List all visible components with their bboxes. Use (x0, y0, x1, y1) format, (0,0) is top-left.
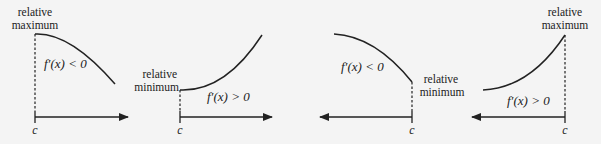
panel-4-label-line1: relative (548, 6, 582, 18)
panel-2-curve (180, 35, 262, 90)
panel-4-derivative: f′(x) > 0 (507, 93, 550, 108)
panel-2-derivative: f′(x) > 0 (207, 89, 250, 104)
panel-3-label-line2: minimum (420, 86, 465, 98)
panel-1-label-line1: relative (18, 6, 52, 18)
diagram-canvas: relative maximum f′(x) < 0 c relative mi… (0, 0, 601, 144)
panel-3-curve (334, 34, 412, 82)
panel-1: relative maximum f′(x) < 0 c (12, 6, 128, 137)
panel-1-point-c: c (32, 123, 38, 137)
panel-3-label-line1: relative (424, 73, 458, 85)
panel-3-point-c: c (409, 123, 415, 137)
panel-4-label-line2: maximum (542, 19, 589, 31)
panel-1-label-line2: maximum (12, 19, 59, 31)
panel-3: relative minimum f′(x) < 0 c (320, 34, 464, 137)
panel-2-point-c: c (177, 123, 183, 137)
panel-2-label-line2: minimum (134, 81, 179, 93)
panel-2-label-line1: relative (143, 68, 177, 80)
panel-1-derivative: f′(x) < 0 (44, 56, 87, 71)
panel-4: relative maximum f′(x) > 0 c (472, 6, 588, 137)
panel-4-curve (483, 35, 565, 90)
panel-2: relative minimum f′(x) > 0 c (134, 35, 272, 137)
panel-4-point-c: c (562, 123, 568, 137)
panel-3-derivative: f′(x) < 0 (341, 59, 384, 74)
derivative-extrema-diagram: relative maximum f′(x) < 0 c relative mi… (0, 0, 601, 144)
